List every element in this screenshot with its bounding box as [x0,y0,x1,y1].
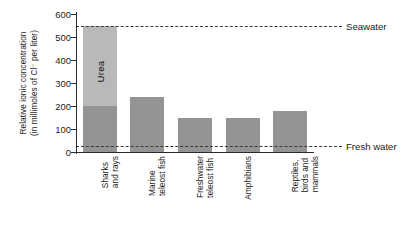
reference-label-seawater: Seawater [346,20,387,31]
bar-0-urea-segment: Urea [83,26,117,107]
y-axis-title-line2: (in millimoles of Cl⁻ per liter) [29,30,40,136]
y-tick-mark-200 [71,106,76,107]
y-axis-title-line1: Relative ionic concentration [19,32,28,135]
y-tick-label-100: 100 [55,124,71,135]
category-label-line: Reptiles, [290,156,300,192]
category-label-4: Reptiles,birds andmammals [290,156,320,192]
category-label-wrap-0: Sharksand rays [76,156,124,228]
category-label-1: Marineteleost fish [147,156,167,196]
category-label-2: Freshwaterteleost fish [195,156,215,198]
bar-inner-label-urea: Urea [94,60,105,82]
y-tick-mark-400 [71,60,76,61]
y-tick-label-600: 600 [55,9,71,20]
plot-area: Urea [76,14,314,152]
category-label-wrap-1: Marineteleost fish [124,156,172,228]
category-label-3: Amphibians [243,156,253,200]
category-label-0: Sharksand rays [100,156,120,188]
reference-label-fresh-water: Fresh water [346,141,397,152]
category-label-wrap-3: Amphibians [219,156,267,228]
category-label-line: teleost fish [205,156,215,198]
y-tick-label-300: 300 [55,78,71,89]
category-label-line: teleost fish [157,156,167,196]
y-tick-mark-600 [71,14,76,15]
y-tick-mark-0 [71,152,76,153]
category-label-line: Amphibians [243,156,253,200]
category-label-line: Sharks [100,156,110,188]
category-label-line: mammals [310,156,320,192]
y-tick-label-400: 400 [55,55,71,66]
y-tick-mark-300 [71,83,76,84]
category-label-line: Freshwater [195,156,205,198]
reference-line-seawater [76,26,342,27]
bar-1 [130,97,164,152]
y-tick-label-200: 200 [55,101,71,112]
y-tick-mark-100 [71,129,76,130]
category-label-wrap-4: Reptiles,birds andmammals [266,156,314,228]
reference-line-fresh-water [76,146,342,147]
category-label-line: Marine [147,156,157,196]
bar-0: Urea [83,26,117,153]
y-tick-label-500: 500 [55,32,71,43]
category-label-wrap-2: Freshwaterteleost fish [171,156,219,228]
category-label-line: birds and [300,156,310,192]
x-axis-line [76,152,314,153]
ionic-concentration-chart: Relative ionic concentration (in millimo… [0,0,401,230]
y-tick-mark-500 [71,37,76,38]
y-axis-tick-labels: 0100200300400500600 [40,14,71,152]
category-label-line: and rays [110,156,120,188]
